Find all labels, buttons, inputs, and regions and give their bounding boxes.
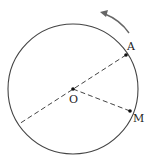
rotation-arrow-icon: [105, 14, 129, 33]
label-a: A: [126, 40, 136, 53]
arrowhead-icon: [100, 10, 108, 17]
label-o: O: [69, 93, 78, 106]
point-m: [128, 109, 132, 113]
point-o: [71, 87, 75, 91]
label-m: M: [133, 112, 144, 125]
radius-line-om: [73, 89, 130, 111]
circle-diagram: A O M: [0, 0, 153, 165]
point-a: [124, 53, 128, 57]
